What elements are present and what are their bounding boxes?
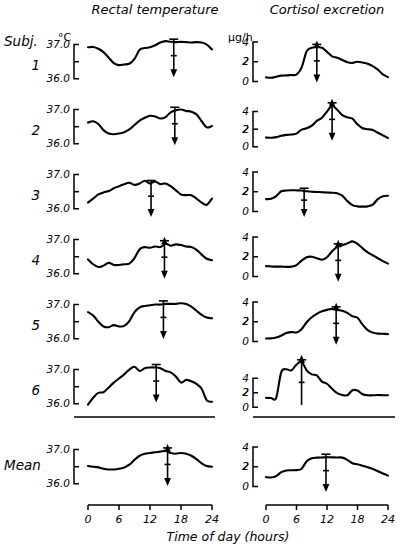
x-tick-label: 24 (381, 513, 395, 526)
column-title-temperature: Rectal temperature (92, 2, 219, 17)
row-label-mean: Mean (4, 457, 41, 473)
y-tick-label: 0 (242, 270, 249, 282)
y-tick-label: 37.0 (47, 443, 71, 455)
y-tick-label: 37.0 (47, 298, 71, 310)
circadian-rhythm-figure: Rectal temperature Cortisol excretion Su… (0, 0, 400, 548)
x-tick-label: 12 (320, 513, 334, 526)
x-tick-label: 0 (85, 513, 92, 526)
x-tick-label: 0 (263, 513, 270, 526)
y-tick-label: 36.0 (47, 72, 71, 84)
y-tick-label: 37.0 (47, 233, 71, 245)
x-axis-label: Time of day (hours) (167, 529, 290, 544)
row-label-subject-4: 4 (31, 252, 40, 268)
y-tick-label: 0 (242, 205, 249, 217)
y-tick-label: 0 (242, 480, 249, 492)
y-tick-label: 36.0 (47, 397, 71, 409)
y-tick-label: 4 (242, 296, 249, 308)
x-tick-label: 24 (205, 513, 219, 526)
x-tick-label: 18 (351, 513, 365, 526)
y-tick-label: 36.0 (47, 477, 71, 489)
row-label-subject-6: 6 (31, 382, 40, 398)
y-tick-label: 0 (242, 75, 249, 87)
y-tick-label: 4 (242, 105, 249, 117)
y-tick-label: 36.0 (47, 137, 71, 149)
x-tick-label: 18 (174, 513, 188, 526)
y-tick-label: 2 (242, 55, 249, 67)
y-tick-label: 4 (242, 166, 249, 178)
y-tick-label: 4 (242, 36, 249, 48)
y-tick-label: 2 (242, 315, 249, 327)
y-tick-label: 0 (242, 335, 249, 347)
y-tick-label: 4 (242, 231, 249, 243)
y-tick-label: 4 (242, 441, 249, 453)
y-tick-label: 2 (242, 460, 249, 472)
column-title-cortisol: Cortisol excretion (270, 2, 385, 17)
y-tick-label: 37.0 (47, 38, 71, 50)
y-tick-label: 2 (242, 123, 249, 135)
row-label-subject-2: 2 (31, 122, 40, 138)
y-tick-label: 37.0 (47, 103, 71, 115)
y-tick-label: 36.0 (47, 332, 71, 344)
y-tick-label: 36.0 (47, 202, 71, 214)
x-tick-label: 6 (116, 513, 123, 526)
y-tick-label: 37.0 (47, 363, 71, 375)
y-tick-label: 0 (242, 140, 249, 152)
row-label-subject-1: 1 (31, 57, 40, 73)
y-tick-label: 0 (242, 401, 249, 413)
x-tick-label: 6 (293, 513, 300, 526)
x-tick-label: 12 (143, 513, 157, 526)
y-tick-label: 2 (242, 386, 249, 398)
row-label-subject-3: 3 (31, 187, 40, 203)
y-tick-label: 4 (242, 372, 249, 384)
y-tick-label: 2 (242, 185, 249, 197)
y-tick-label: 37.0 (47, 168, 71, 180)
y-tick-label: 2 (242, 250, 249, 262)
row-header-label: Subj. (4, 33, 38, 49)
row-label-subject-5: 5 (31, 317, 40, 333)
y-tick-label: 36.0 (47, 267, 71, 279)
